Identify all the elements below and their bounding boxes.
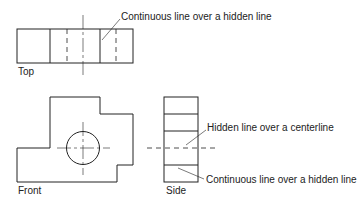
side-callout-hidden-text: Continuous line over a hidden line <box>206 174 357 185</box>
front-view: Front <box>17 97 133 196</box>
side-view-label: Side <box>166 185 186 196</box>
top-view-label: Top <box>18 66 35 77</box>
side-view: Hidden line over a centerline Continuous… <box>147 97 357 196</box>
side-callout-center-text: Hidden line over a centerline <box>207 122 334 133</box>
top-callout-text: Continuous line over a hidden line <box>121 11 272 22</box>
top-view: Continuous line over a hidden line Top <box>17 11 272 77</box>
side-callout-center-leader <box>186 130 206 145</box>
projection-drawing: Continuous line over a hidden line Top F… <box>0 0 363 206</box>
side-callout-hidden-leader <box>178 168 204 179</box>
front-view-outline <box>17 97 133 182</box>
front-view-label: Front <box>18 185 42 196</box>
